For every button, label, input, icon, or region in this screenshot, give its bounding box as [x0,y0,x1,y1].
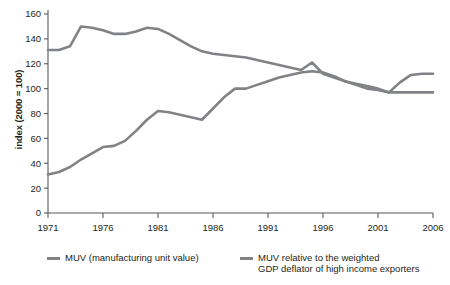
y-axis-tick-label: 0 [36,207,41,218]
y-axis-tick-label: 160 [25,8,41,19]
legend-item-muv-relative: MUV relative to the weighted GDP deflato… [240,252,419,274]
y-axis-tick-label: 20 [30,183,41,194]
chart-legend: MUV (manufacturing unit value) MUV relat… [0,252,450,285]
x-axis-tick-label: 1981 [147,222,168,233]
x-axis-tick-label: 1986 [202,222,223,233]
x-axis-tick-label: 1976 [92,222,113,233]
x-axis-tick-label: 2006 [422,222,443,233]
x-axis-tick-label: 1996 [312,222,333,233]
y-axis-tick-label: 140 [25,33,41,44]
x-axis-tick-label: 1991 [257,222,278,233]
x-axis-tick-label: 1971 [37,222,58,233]
chart-container: index (2000 = 100) 020406080100120140160… [0,0,450,285]
legend-swatch-icon [47,257,60,260]
legend-label-muv: MUV (manufacturing unit value) [65,252,199,263]
y-axis-tick-label: 100 [25,83,41,94]
y-axis-tick-label: 40 [30,158,41,169]
x-axis-tick-label: 2001 [367,222,388,233]
series-line-1 [48,26,433,92]
legend-item-muv: MUV (manufacturing unit value) [47,252,199,263]
legend-label-muv-relative: MUV relative to the weighted GDP deflato… [258,252,419,274]
line-chart-plot: 0204060801001201401601971197619811986199… [0,0,450,285]
y-axis-tick-label: 80 [30,108,41,119]
y-axis-tick-label: 120 [25,58,41,69]
y-axis-tick-label: 60 [30,133,41,144]
legend-swatch-icon [240,257,253,260]
